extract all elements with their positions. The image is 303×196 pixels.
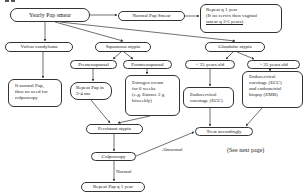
node-repeat-q1-year: Repeat q 1 year (If no cervix then vagin… [200,4,282,33]
see-next-page-note: (See next page) [227,147,264,153]
node-text-line: biweekly) [132,98,152,104]
node-text-line: smear q 3-5 years) [206,19,243,25]
node-treat-accordingly: Treat accordingly [195,127,253,136]
node-ecc-emb: Endocervical curettage (ECC) and endomet… [242,71,303,108]
node-repeat-pap-q1-year: Repeat Pap q 1 year [81,182,145,192]
node-premenopausal: Premenopausal [70,60,117,69]
node-persistent-atypia: Persistant atypia [86,124,143,134]
node-normal-pap-smear: Normal Pap Smear [118,11,185,21]
node-yearly-pap-smear: Yearly Pap smear [10,8,90,22]
node-ecc: Endocervical curettage (ECC) [183,87,234,108]
node-text-line: curettage (ECC) [190,98,223,104]
node-if-normal-pap: If normal Pap, then no need for colposco… [8,79,62,107]
node-under-35: < 35 years old [185,60,235,69]
node-glandular-atypia: Glandular atypia [205,42,265,52]
node-squamous-atypia: Squamous atypia [95,42,151,52]
edge-label-abnormal: Abnormal [162,147,182,153]
node-vulvar-condyloma: Vulvar condyloma [5,42,73,52]
node-text-line: 3-4 mo [76,91,90,97]
node-repeat-pap-3-4-mo: Repeat Pap in 3-4 mo [70,82,112,100]
node-text-line: biopsy (EMB) [249,92,278,98]
node-over-35: > 35 years old [247,60,300,69]
node-colposcopy: Colposcopy [91,152,136,161]
node-postmenopausal: Postmenopausal [123,60,172,69]
node-estrogen-cream: Estrogen cream for 6 weeks (e.g. Estrace… [125,75,180,116]
node-text-line: colposcopy [15,95,38,101]
edge-label-normal: Normal [116,169,131,175]
